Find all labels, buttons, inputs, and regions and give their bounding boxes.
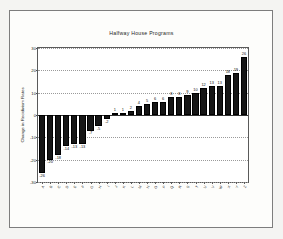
x-axis-ticks: ABCDEFGHIJKLMNOPQRSTUVWXYZ bbox=[38, 48, 248, 182]
x-tick-mark bbox=[115, 182, 116, 184]
y-tick-label: 0 bbox=[34, 113, 36, 118]
x-tick-mark bbox=[155, 182, 156, 184]
y-tick-label: -20 bbox=[30, 157, 36, 162]
x-tick-mark bbox=[236, 182, 237, 184]
y-tick-label: 20 bbox=[31, 68, 36, 73]
x-tick-mark bbox=[74, 182, 75, 184]
screenshot-root: Halfway House Programs Change in Recidiv… bbox=[0, 0, 283, 239]
x-tick-mark bbox=[99, 182, 100, 184]
gridline bbox=[38, 182, 248, 183]
y-tick-mark bbox=[36, 182, 38, 183]
x-tick-mark bbox=[66, 182, 67, 184]
x-tick-mark bbox=[58, 182, 59, 184]
y-tick-label: 10 bbox=[31, 90, 36, 95]
x-tick-mark bbox=[139, 182, 140, 184]
x-tick-mark bbox=[147, 182, 148, 184]
y-tick-label: -30 bbox=[30, 180, 36, 185]
y-axis-title: Change in Recidivism Rates bbox=[19, 47, 27, 183]
y-tick-label: 30 bbox=[31, 46, 36, 51]
x-tick-mark bbox=[163, 182, 164, 184]
x-tick-mark bbox=[91, 182, 92, 184]
x-tick-mark bbox=[212, 182, 213, 184]
plot-area: -30-20-100102030 -26-20-18-14-13-13-7-5-… bbox=[37, 47, 249, 183]
x-tick-mark bbox=[196, 182, 197, 184]
x-tick-mark bbox=[244, 182, 245, 184]
y-tick-label: -10 bbox=[30, 135, 36, 140]
x-tick-mark bbox=[131, 182, 132, 184]
x-tick-mark bbox=[123, 182, 124, 184]
x-tick-mark bbox=[220, 182, 221, 184]
x-tick-mark bbox=[171, 182, 172, 184]
x-tick-mark bbox=[187, 182, 188, 184]
x-tick-mark bbox=[179, 182, 180, 184]
x-tick-mark bbox=[50, 182, 51, 184]
x-tick-mark bbox=[228, 182, 229, 184]
x-tick-mark bbox=[107, 182, 108, 184]
x-tick-mark bbox=[42, 182, 43, 184]
x-tick-mark bbox=[204, 182, 205, 184]
chart-title: Halfway House Programs bbox=[0, 30, 283, 36]
x-tick-mark bbox=[82, 182, 83, 184]
